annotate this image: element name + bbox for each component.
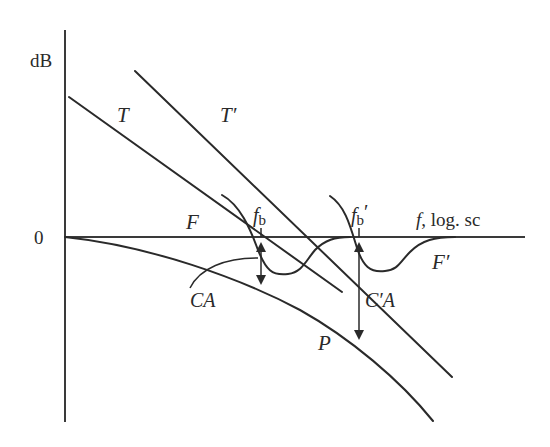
label-P: P [317,331,331,355]
y-axis-label: dB [30,50,52,71]
frequency-response-diagram: dB 0 f, log. sc T T′ F F′ P fb fb′ CA C′… [0,0,550,447]
label-F: F [185,210,199,234]
label-T: T [117,103,130,127]
curve-T [69,97,342,292]
label-CA: CA [190,289,216,311]
label-fb-prime: fb′ [351,201,368,228]
x-axis-label: f, log. sc [416,209,480,230]
zero-db-label: 0 [34,227,44,248]
label-C-prime-A: C′A [365,289,396,311]
label-fb: fb [253,204,266,228]
label-F-prime: F′ [431,250,450,274]
label-T-prime: T′ [220,103,237,127]
curve-P [65,237,433,421]
x-axis-label-suffix: , log. sc [421,209,480,230]
curve-T-prime [135,71,452,377]
CA-leader [190,258,258,288]
curve-F [222,195,350,274]
